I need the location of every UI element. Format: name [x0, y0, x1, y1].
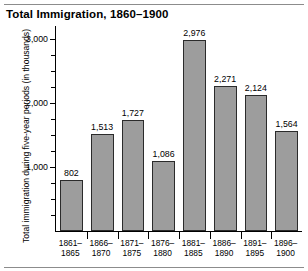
- x-tick-label-line: 1876–: [147, 238, 178, 248]
- bar-value-label: 1,564: [271, 119, 302, 129]
- x-tick-label-line: 1865: [55, 248, 86, 258]
- bar-value-label: 802: [56, 168, 87, 178]
- x-tick-label-line: 1866–: [86, 238, 117, 248]
- bar-value-label: 1,513: [87, 122, 118, 132]
- plot-area: 1,0002,0003,000 8021,5131,7271,0862,9762…: [55, 26, 302, 232]
- bar-value-label: 1,086: [148, 149, 179, 159]
- x-tick-label: 1881–1885: [178, 238, 209, 258]
- x-tick-label-line: 1885: [178, 248, 209, 258]
- y-tick-mark: [50, 167, 55, 168]
- x-tick-label-line: 1890: [209, 248, 240, 258]
- bar[interactable]: [275, 131, 298, 231]
- bar-value-label: 2,976: [179, 28, 210, 38]
- bar-slot: 1,086: [148, 26, 179, 231]
- y-minor-tick-mark: [51, 71, 55, 72]
- bar[interactable]: [152, 161, 175, 231]
- bar-slot: 1,727: [118, 26, 149, 231]
- bar-value-label: 1,727: [118, 108, 149, 118]
- y-tick-label: 1,000: [26, 162, 48, 172]
- bar[interactable]: [245, 95, 268, 231]
- x-tick-label-line: 1880: [147, 248, 178, 258]
- bar[interactable]: [91, 134, 114, 231]
- y-tick-mark: [50, 103, 55, 104]
- bar-series: 8021,5131,7271,0862,9762,2712,1241,564: [56, 26, 302, 231]
- x-tick-label-line: 1875: [117, 248, 148, 258]
- y-minor-tick-mark: [51, 199, 55, 200]
- bar-slot: 1,564: [271, 26, 302, 231]
- y-minor-tick-mark: [51, 119, 55, 120]
- x-tick-label: 1861–1865: [55, 238, 86, 258]
- bar[interactable]: [122, 120, 145, 231]
- bar[interactable]: [183, 40, 206, 231]
- x-tick-label-line: 1871–: [117, 238, 148, 248]
- y-minor-tick-mark: [51, 87, 55, 88]
- figure: Total Immigration, 1860–1900 Total immig…: [0, 0, 308, 271]
- bar-value-label: 2,271: [210, 74, 241, 84]
- chart-title: Total Immigration, 1860–1900: [6, 8, 168, 20]
- bar-slot: 2,976: [179, 26, 210, 231]
- bar-slot: 802: [56, 26, 87, 231]
- y-minor-tick-mark: [51, 151, 55, 152]
- bar-value-label: 2,124: [241, 83, 272, 93]
- x-tick-label-line: 1886–: [209, 238, 240, 248]
- bar-slot: 2,124: [241, 26, 272, 231]
- figure-top-rule: [4, 4, 304, 5]
- x-tick-label: 1866–1870: [86, 238, 117, 258]
- bar[interactable]: [214, 86, 237, 231]
- y-axis-label: Total immigration during five-year perio…: [21, 33, 31, 243]
- figure-bottom-rule: [4, 267, 304, 268]
- x-tick-label-line: 1900: [270, 248, 301, 258]
- x-tick-label-line: 1891–: [240, 238, 271, 248]
- x-axis-labels: 1861–18651866–18701871–18751876–18801881…: [55, 238, 302, 262]
- y-minor-tick-mark: [51, 215, 55, 216]
- y-tick-mark: [50, 39, 55, 40]
- x-tick-label-line: 1870: [86, 248, 117, 258]
- y-tick-label: 2,000: [26, 98, 48, 108]
- bar-slot: 2,271: [210, 26, 241, 231]
- x-tick-label: 1891–1895: [240, 238, 271, 258]
- x-tick-label-line: 1895: [240, 248, 271, 258]
- x-tick-label-line: 1861–: [55, 238, 86, 248]
- y-minor-tick-mark: [51, 183, 55, 184]
- bar[interactable]: [60, 180, 83, 231]
- x-tick-label: 1871–1875: [117, 238, 148, 258]
- x-tick-label-line: 1881–: [178, 238, 209, 248]
- x-tick-label: 1896–1900: [270, 238, 301, 258]
- x-tick-label: 1876–1880: [147, 238, 178, 258]
- y-minor-tick-mark: [51, 135, 55, 136]
- bar-slot: 1,513: [87, 26, 118, 231]
- y-minor-tick-mark: [51, 55, 55, 56]
- x-tick-label-line: 1896–: [270, 238, 301, 248]
- y-tick-label: 3,000: [26, 34, 48, 44]
- x-tick-label: 1886–1890: [209, 238, 240, 258]
